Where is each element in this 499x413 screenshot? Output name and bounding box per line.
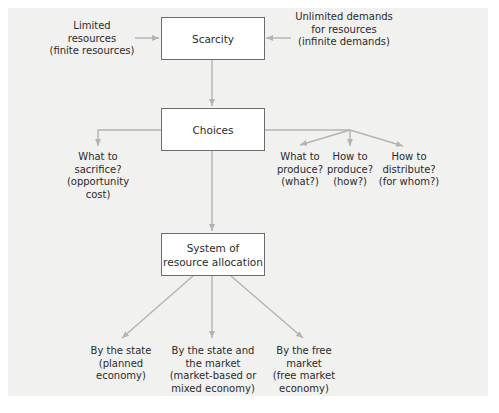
text-line: By the state and — [165, 345, 261, 358]
resource-allocation-box: System of resource allocation — [161, 233, 265, 276]
unlimited-demands-label: Unlimited demands for resources (infinit… — [288, 11, 400, 49]
text-line: economy) — [80, 370, 162, 383]
opportunity-cost-label: What to sacrifice? (opportunity cost) — [58, 151, 138, 201]
text-line: By the free — [266, 345, 342, 358]
text-line: (market-based or — [165, 370, 261, 383]
free-market-economy-label: By the free market (free market economy) — [266, 345, 342, 395]
mixed-economy-label: By the state and the market (market-base… — [165, 345, 261, 395]
text-line: economy) — [266, 383, 342, 396]
text-line: How to — [372, 151, 446, 164]
text-line: mixed economy) — [165, 383, 261, 396]
text-line: By the state — [80, 345, 162, 358]
text-line: the market — [165, 358, 261, 371]
text-line: (infinite demands) — [288, 36, 400, 49]
text-line: (free market — [266, 370, 342, 383]
text-line: resources — [45, 33, 139, 46]
how-to-produce-label: How to produce? (how?) — [320, 151, 380, 189]
scarcity-label: Scarcity — [192, 32, 234, 46]
text-line: (for whom?) — [372, 176, 446, 189]
text-line: distribute? — [372, 164, 446, 177]
text-line: Limited — [45, 20, 139, 33]
planned-economy-label: By the state (planned economy) — [80, 345, 162, 383]
choices-label: Choices — [192, 123, 233, 137]
text-line: What to — [58, 151, 138, 164]
scarcity-box: Scarcity — [161, 17, 265, 60]
how-to-distribute-label: How to distribute? (for whom?) — [372, 151, 446, 189]
text-line: for resources — [288, 24, 400, 37]
text-line: cost) — [58, 189, 138, 202]
text-line: Unlimited demands — [288, 11, 400, 24]
text-line: market — [266, 358, 342, 371]
system-label-line1: System of — [187, 241, 240, 255]
limited-resources-label: Limited resources (finite resources) — [45, 20, 139, 58]
text-line: How to — [320, 151, 380, 164]
text-line: produce? — [320, 164, 380, 177]
text-line: sacrifice? — [58, 164, 138, 177]
text-line: (planned — [80, 358, 162, 371]
text-line: (how?) — [320, 176, 380, 189]
choices-box: Choices — [161, 108, 265, 151]
system-label-line2: resource allocation — [163, 255, 263, 269]
text-line: (finite resources) — [45, 45, 139, 58]
text-line: (opportunity — [58, 176, 138, 189]
